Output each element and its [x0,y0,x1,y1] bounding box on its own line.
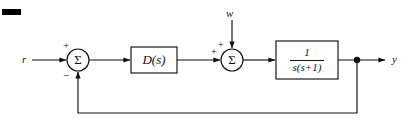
plant-numerator: 1 [276,47,338,60]
plant-block-label: 1 s(s+1) [276,47,338,73]
reference-signal-label: r [22,54,26,65]
error-summer-minus-sign: − [63,70,69,81]
disturbance-summer-plus-top-sign: + [218,40,224,50]
output-signal-label: y [392,54,397,65]
block-diagram-graphics [0,0,420,125]
output-takeoff-dot [354,57,360,63]
error-summer-plus-sign: + [63,40,69,51]
controller-block-label: D(s) [131,53,177,66]
error-summer-sigma-glyph: Σ [70,53,86,66]
disturbance-summer-plus-left-sign: + [211,47,217,57]
plant-denominator: s(s+1) [276,61,338,74]
disturbance-summer-sigma-glyph: Σ [224,53,240,66]
block-diagram-canvas: r w y + − Σ + + Σ D(s) 1 s(s+1) [0,0,420,125]
disturbance-signal-label: w [226,8,233,19]
